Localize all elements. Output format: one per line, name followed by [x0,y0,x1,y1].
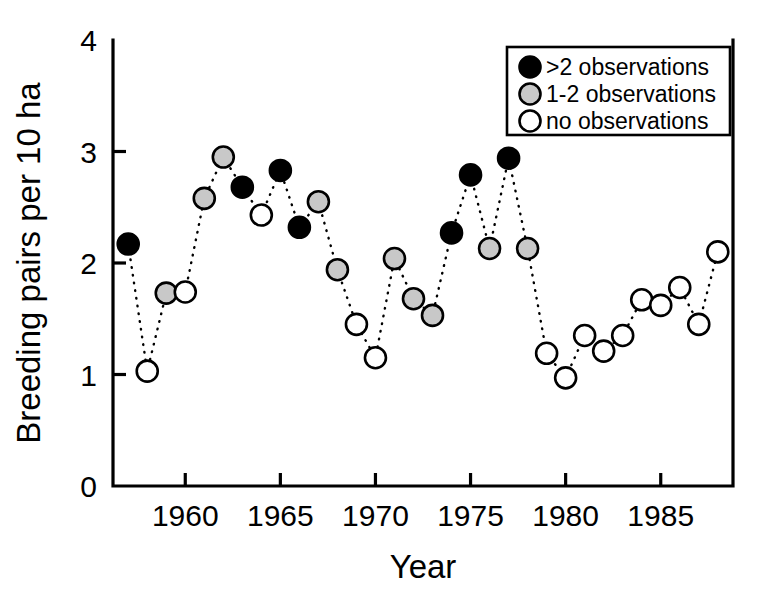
data-point-marker[interactable]: 1976: 2.13 [479,238,500,259]
data-point-marker[interactable]: 1974: 2.27 [441,222,462,243]
data-point-marker[interactable]: 1977: 2.94 [498,148,519,169]
breeding-pairs-scatter-chart: 196019651970197519801985 01234 1957: 2.1… [0,0,766,607]
data-point-marker[interactable]: 1969: 1.45 [346,314,367,335]
x-axis-tick-label: 1980 [532,499,599,532]
data-point-marker[interactable]: 1970: 1.15 [365,347,386,368]
data-point-marker[interactable]: 1975: 2.79 [460,164,481,185]
data-point-marker[interactable]: 1973: 1.53 [422,305,443,326]
legend-marker-filled-black [520,57,541,78]
data-point-marker[interactable]: 1967: 2.55 [308,191,329,212]
data-point-marker[interactable]: 1980: 0.97 [555,367,576,388]
y-axis-title: Breeding pairs per 10 ha [10,82,47,444]
data-point-marker[interactable]: 1958: 1.03 [137,361,158,382]
y-axis-tick-label: 2 [80,247,97,280]
data-point-marker[interactable]: 1960: 1.74 [175,281,196,302]
legend-label: no observations [546,108,708,134]
data-point-marker[interactable]: 1961: 2.58 [194,188,215,209]
legend-label: >2 observations [546,54,709,80]
data-point-marker[interactable]: 1979: 1.19 [536,343,557,364]
x-axis-tick-label: 1965 [247,499,314,532]
data-point-marker[interactable]: 1978: 2.13 [517,238,538,259]
x-axis-tick-label: 1960 [152,499,219,532]
data-point-marker[interactable]: 1986: 1.78 [669,277,690,298]
data-point-marker[interactable]: 1971: 2.04 [384,248,405,269]
data-point-marker[interactable]: 1988: 2.1 [707,241,728,262]
data-point-marker[interactable]: 1963: 2.68 [232,177,253,198]
data-point-marker[interactable]: 1962: 2.95 [213,147,234,168]
x-axis-tick-label: 1970 [342,499,409,532]
data-point-marker[interactable]: 1964: 2.43 [251,205,272,226]
legend-marker-filled-gray [520,84,541,105]
y-axis-tick-label: 0 [80,470,97,503]
y-axis-tick-label: 1 [80,359,97,392]
data-point-marker[interactable]: 1984: 1.67 [631,289,652,310]
data-point-marker[interactable]: 1983: 1.35 [612,325,633,346]
data-point-marker[interactable]: 1968: 1.94 [327,259,348,280]
legend-marker-open-white [520,111,541,132]
x-axis-tick-label: 1975 [437,499,504,532]
data-point-marker[interactable]: 1957: 2.17 [118,234,139,255]
data-point-marker[interactable]: 1966: 2.32 [289,217,310,238]
y-axis-tick-label: 4 [80,24,97,57]
x-axis-tick-label: 1985 [627,499,694,532]
legend-label: 1-2 observations [546,81,716,107]
data-point-marker[interactable]: 1972: 1.68 [403,288,424,309]
chart-legend: >2 observations1-2 observationsno observ… [507,47,730,135]
x-axis-title: Year [390,548,457,585]
data-point-marker[interactable]: 1982: 1.21 [593,341,614,362]
data-point-marker[interactable]: 1985: 1.62 [650,295,671,316]
data-point-marker[interactable]: 1987: 1.45 [688,314,709,335]
data-point-marker[interactable]: 1965: 2.83 [270,160,291,181]
y-axis-tick-label: 3 [80,136,97,169]
chart-figure: 196019651970197519801985 01234 1957: 2.1… [0,0,766,607]
data-point-marker[interactable]: 1981: 1.35 [574,325,595,346]
